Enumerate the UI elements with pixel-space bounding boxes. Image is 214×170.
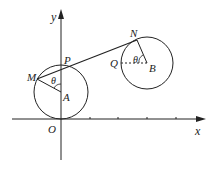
point-a-label: A: [62, 91, 70, 103]
segment-mn: [37, 40, 137, 79]
y-axis-arrow-icon: [58, 9, 64, 19]
point-p-label: P: [63, 54, 71, 66]
point-n-label: N: [129, 27, 138, 39]
geometry-diagram: x y O M P A N Q B θ θ: [0, 0, 214, 170]
y-axis-label: y: [50, 10, 57, 24]
segment-ma: [37, 79, 61, 92]
point-m-label: M: [26, 71, 37, 83]
segment-nb: [137, 40, 147, 63]
point-b-label: B: [149, 62, 156, 74]
x-axis: x: [12, 116, 206, 138]
origin-label: O: [48, 123, 56, 135]
point-q-label: Q: [110, 57, 118, 69]
angle-arc-b: [139, 55, 143, 63]
angle-theta-a-label: θ: [51, 75, 56, 86]
x-axis-label: x: [194, 124, 201, 138]
x-axis-arrow-icon: [196, 116, 206, 122]
angle-theta-b-label: θ: [133, 54, 138, 65]
